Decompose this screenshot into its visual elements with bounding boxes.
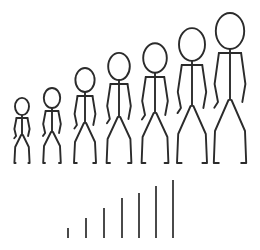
illustration-root xyxy=(0,0,260,250)
stick-figure-illustration xyxy=(0,0,260,250)
background xyxy=(0,0,260,250)
